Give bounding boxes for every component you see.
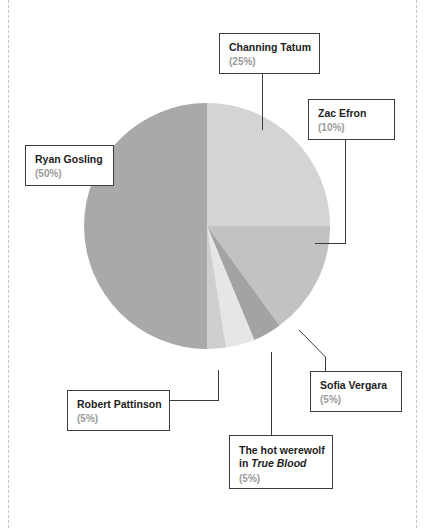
callout-label-line1: The hot werewolf bbox=[239, 444, 324, 457]
callout-percent: (25%) bbox=[229, 56, 311, 69]
callout-label: Robert Pattinson bbox=[77, 398, 161, 411]
callout-label-line2: in True Blood bbox=[239, 457, 324, 470]
pie-chart bbox=[84, 103, 330, 349]
callout-label: Channing Tatum bbox=[229, 41, 311, 54]
callout-zac-efron[interactable]: Zac Efron (10%) bbox=[308, 99, 395, 140]
callout-label: Zac Efron bbox=[318, 107, 386, 120]
callout-hot-werewolf[interactable]: The hot werewolf in True Blood (5%) bbox=[229, 435, 333, 489]
callout-percent: (5%) bbox=[239, 473, 324, 486]
page-guide-left bbox=[8, 0, 9, 528]
callout-percent: (10%) bbox=[318, 122, 386, 135]
callout-sofia-vergara[interactable]: Sofia Vergara (5%) bbox=[310, 371, 402, 412]
callout-label-prefix: in bbox=[239, 457, 251, 469]
chart-title: of the hot werewolf bbox=[0, 0, 425, 3]
callout-robert-pattinson[interactable]: Robert Pattinson (5%) bbox=[67, 390, 170, 431]
callout-percent: (50%) bbox=[35, 168, 105, 181]
callout-percent: (5%) bbox=[77, 413, 161, 426]
pie-slice-ryan bbox=[84, 103, 207, 349]
callout-label: Sofia Vergara bbox=[320, 379, 393, 392]
page-canvas: of the hot werewolf bbox=[0, 0, 425, 528]
callout-percent: (5%) bbox=[320, 394, 393, 407]
callout-channing-tatum[interactable]: Channing Tatum (25%) bbox=[219, 33, 320, 74]
callout-ryan-gosling[interactable]: Ryan Gosling (50%) bbox=[25, 145, 114, 186]
page-guide-right bbox=[416, 0, 417, 528]
callout-label: Ryan Gosling bbox=[35, 153, 105, 166]
callout-label-title: True Blood bbox=[251, 457, 306, 469]
